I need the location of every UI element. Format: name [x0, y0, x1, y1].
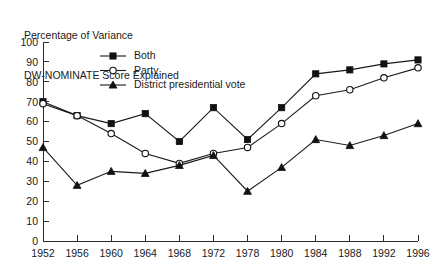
chart-container: Percentage of Variance DW-NOMINATE Score…	[0, 0, 442, 272]
data-point-marker	[278, 120, 284, 126]
data-point-marker	[313, 93, 319, 99]
data-point-marker	[108, 130, 114, 136]
data-point-marker	[313, 71, 319, 77]
data-point-marker	[381, 75, 387, 81]
x-tick-label: 1980	[270, 247, 294, 259]
x-tick-label: 1964	[134, 247, 158, 259]
data-point-marker	[110, 67, 116, 73]
data-point-marker	[142, 150, 148, 156]
data-point-marker	[415, 57, 421, 63]
x-tick-label: 1952	[31, 247, 55, 259]
data-point-marker	[40, 100, 46, 106]
x-tick-label: 1968	[168, 247, 192, 259]
x-tick-label: 1992	[372, 247, 396, 259]
series-line	[43, 124, 418, 192]
data-point-marker	[381, 61, 387, 67]
data-point-marker	[176, 138, 182, 144]
y-tick-label: 70	[26, 96, 38, 108]
legend-item: Both	[100, 49, 156, 61]
data-point-marker	[39, 144, 47, 151]
x-tick-label: 1988	[338, 247, 362, 259]
x-axis: 1952195619601964196819721978198019841988…	[31, 235, 430, 259]
legend-item: Party	[100, 64, 159, 76]
legend-item: District presidential vote	[100, 78, 246, 90]
y-tick-label: 0	[32, 235, 38, 247]
y-tick-label: 20	[26, 195, 38, 207]
x-tick-label: 1972	[202, 247, 226, 259]
y-tick-label: 50	[26, 135, 38, 147]
line-chart-plot: 0102030405060708090100 19521956196019641…	[0, 0, 442, 272]
y-tick-label: 100	[20, 36, 38, 48]
x-tick-label: 1978	[236, 247, 260, 259]
chart-legend: BothPartyDistrict presidential vote	[100, 49, 246, 90]
y-tick-label: 40	[26, 155, 38, 167]
data-point-marker	[347, 67, 353, 73]
y-tick-label: 60	[26, 115, 38, 127]
legend-label: Both	[134, 49, 156, 61]
x-tick-label: 1960	[100, 247, 124, 259]
data-point-marker	[142, 111, 148, 117]
y-tick-label: 10	[26, 215, 38, 227]
y-tick-label: 30	[26, 175, 38, 187]
y-tick-label: 80	[26, 76, 38, 88]
data-series	[40, 57, 421, 145]
data-point-marker	[414, 120, 422, 127]
data-point-marker	[110, 53, 116, 59]
y-axis: 0102030405060708090100	[20, 36, 49, 247]
legend-label: District presidential vote	[134, 78, 246, 90]
data-point-marker	[312, 136, 320, 143]
data-point-marker	[415, 65, 421, 71]
data-series	[39, 120, 422, 195]
y-tick-label: 90	[26, 56, 38, 68]
data-point-marker	[279, 105, 285, 111]
data-point-marker	[347, 87, 353, 93]
legend-label: Party	[134, 64, 159, 76]
x-tick-label: 1984	[304, 247, 328, 259]
data-point-marker	[244, 144, 250, 150]
data-point-marker	[210, 105, 216, 111]
data-point-marker	[108, 120, 114, 126]
series-line	[43, 60, 418, 142]
x-tick-label: 1996	[406, 247, 430, 259]
data-point-marker	[244, 136, 250, 142]
x-tick-label: 1956	[65, 247, 89, 259]
data-point-marker	[74, 112, 80, 118]
